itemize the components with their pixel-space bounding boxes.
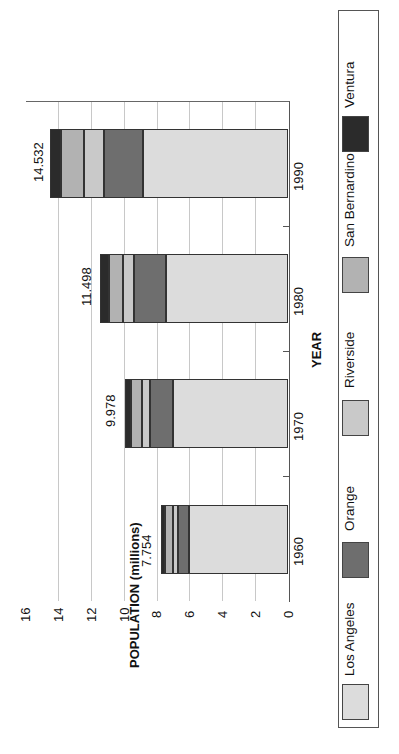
legend-swatch-san-bernardino [342, 257, 369, 293]
y-tick-label: 14 [52, 608, 65, 622]
bar-segment-los-angeles-1970 [173, 379, 288, 448]
x-axis-title: YEAR [309, 332, 324, 368]
total-label-1990: 14.532 [32, 142, 45, 182]
legend-label-riverside: Riverside [342, 332, 357, 388]
y-tick-label: 16 [19, 608, 32, 622]
y-tick-label: 2 [249, 611, 262, 618]
y-tick-label: 6 [183, 611, 196, 618]
bar-segment-san-bernardino-1990 [61, 129, 84, 198]
bar-segment-orange-1960 [178, 505, 189, 574]
bar-segment-los-angeles-1960 [189, 505, 288, 574]
bar-segment-orange-1990 [104, 129, 144, 198]
bar-segment-ventura-1970 [125, 379, 131, 448]
category-label-1980: 1980 [292, 287, 305, 316]
legend-swatch-riverside [342, 400, 369, 436]
legend-swatch-ventura [342, 116, 369, 152]
bar-segment-los-angeles-1980 [166, 254, 289, 323]
total-label-1980: 11.498 [80, 267, 93, 306]
y-tick-label: 0 [282, 611, 295, 618]
category-tick [283, 226, 290, 227]
bar-segment-los-angeles-1990 [143, 129, 288, 198]
y-tick-label: 4 [216, 611, 229, 618]
bar-segment-ventura-1980 [100, 254, 109, 323]
legend-swatch-orange [342, 542, 369, 578]
total-label-1960: 7.754 [140, 534, 153, 567]
legend-label-los-angeles: Los Angeles [342, 602, 357, 676]
y-tick-label: 8 [150, 611, 163, 618]
legend-swatch-los-angeles [342, 684, 369, 720]
bar-segment-san-bernardino-1980 [109, 254, 124, 323]
bar-segment-ventura-1960 [161, 505, 164, 574]
category-label-1990: 1990 [292, 162, 305, 191]
bar-segment-ventura-1990 [50, 129, 61, 198]
y-tick-label: 12 [85, 608, 98, 622]
bar-segment-orange-1970 [150, 379, 173, 448]
bar-segment-riverside-1970 [142, 379, 150, 448]
bar-segment-san-bernardino-1970 [131, 379, 142, 448]
category-tick [283, 351, 290, 352]
bar-segment-riverside-1980 [123, 254, 134, 323]
legend-label-orange: Orange [342, 486, 357, 531]
bar-segment-orange-1980 [134, 254, 166, 323]
legend-label-san-bernardino: San Bernardino [342, 153, 357, 247]
bar-segment-san-bernardino-1960 [165, 505, 173, 574]
category-label-1970: 1970 [292, 412, 305, 441]
bar-segment-riverside-1960 [173, 505, 178, 574]
category-tick [283, 476, 290, 477]
legend-label-ventura: Ventura [342, 61, 357, 108]
bar-segment-riverside-1990 [84, 129, 103, 198]
category-label-1960: 1960 [292, 537, 305, 566]
total-label-1970: 9.978 [104, 394, 117, 427]
